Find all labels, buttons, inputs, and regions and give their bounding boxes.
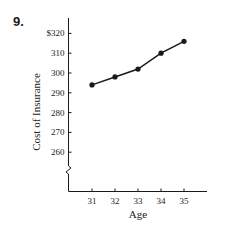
data-point: [135, 66, 140, 71]
data-point: [89, 82, 94, 87]
y-tick-label: 260: [51, 147, 65, 157]
axes: [66, 18, 207, 192]
y-axis-ticks: $320310300290280270260: [47, 28, 72, 157]
y-axis-title: Cost of Insurance: [30, 73, 42, 151]
y-tick-label: 280: [51, 108, 65, 118]
data-series: [89, 39, 186, 88]
x-tick-label: 32: [111, 196, 120, 206]
data-point: [112, 74, 117, 79]
x-tick-label: 34: [157, 196, 167, 206]
y-tick-label: $320: [47, 28, 66, 38]
data-line: [92, 41, 184, 85]
y-tick-label: 270: [51, 127, 65, 137]
y-tick-label: 310: [51, 48, 65, 58]
data-point: [158, 51, 163, 56]
x-tick-label: 31: [88, 196, 97, 206]
data-point: [181, 39, 186, 44]
x-tick-label: 35: [180, 196, 190, 206]
line-chart: $320310300290280270260 3132333435 Age Co…: [0, 0, 228, 228]
y-axis-line: [66, 18, 71, 192]
x-axis-title: Age: [129, 208, 147, 220]
y-tick-label: 290: [51, 88, 65, 98]
x-tick-label: 33: [134, 196, 144, 206]
y-tick-label: 300: [51, 68, 65, 78]
